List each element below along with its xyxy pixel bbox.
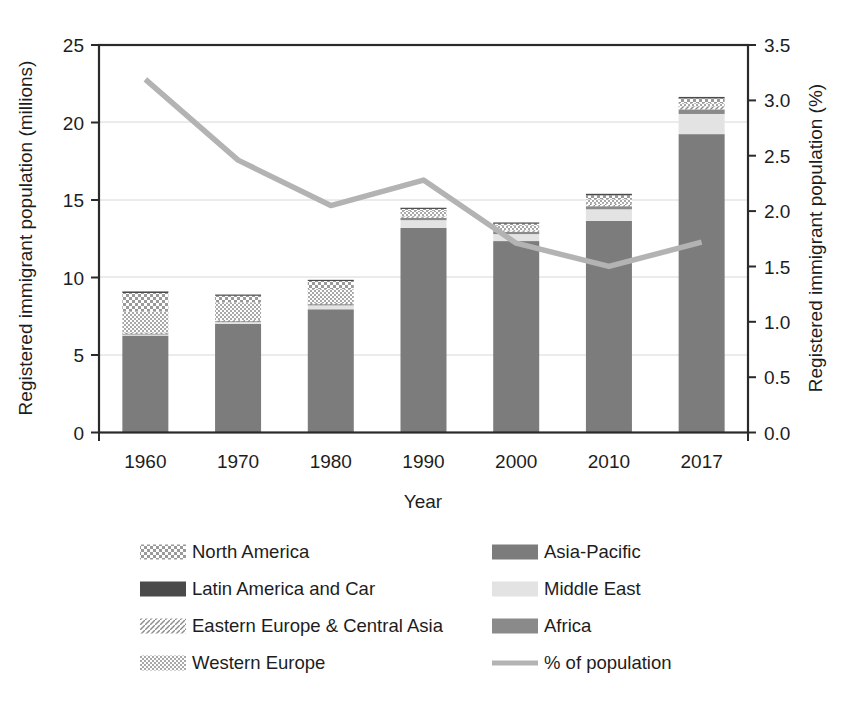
bar-segment-north_america (122, 293, 168, 312)
bar-segment-asia_pacific (308, 309, 354, 432)
bar-segment-western_europe (215, 302, 261, 320)
bar-segment-latin_america (401, 208, 447, 209)
ytick-label: 0 (73, 423, 84, 444)
x-axis-title: Year (404, 491, 443, 512)
bar-segment-eastern_europe (308, 303, 354, 304)
bar-segment-middle_east (308, 305, 354, 309)
x-axis-ticks (99, 433, 748, 442)
legend-swatch-icon (140, 656, 186, 671)
bar-segment-eastern_europe (122, 333, 168, 334)
y2tick-label: 1.0 (764, 312, 790, 333)
bar-segment-asia_pacific (493, 241, 539, 432)
right-axis-tick-labels: 3.5 3.0 2.5 2.0 1.5 1.0 0.5 0.0 (764, 35, 790, 444)
legend-swatch-icon (140, 619, 186, 634)
immigrant-population-chart: 25 20 15 10 5 0 3.5 3.0 2.5 2.0 1.5 1.0 … (0, 0, 852, 704)
bar-2000 (493, 222, 539, 432)
bar-segment-eastern_europe (586, 204, 632, 206)
legend-item[interactable]: Eastern Europe & Central Asia (140, 615, 444, 636)
legend-swatch-icon (140, 582, 186, 597)
legend-label: Asia-Pacific (544, 541, 641, 562)
bar-segment-africa (679, 109, 725, 114)
left-axis-title: Registered immigrant population (million… (15, 61, 36, 416)
bar-segment-eastern_europe (401, 216, 447, 218)
bar-segment-latin_america (679, 97, 725, 99)
y2tick-label: 0.0 (764, 423, 790, 444)
bar-segment-north_america (308, 281, 354, 290)
xtick-label-1960: 1960 (124, 451, 166, 472)
x-axis-tick-labels: 1960197019801990200020102017 (124, 451, 723, 472)
bars-layer (122, 97, 724, 433)
y2tick-label: 3.5 (764, 35, 790, 56)
bar-segment-middle_east (586, 209, 632, 221)
right-axis-title: Registered immigrant population (%) (805, 84, 826, 392)
y2tick-label: 2.5 (764, 146, 790, 167)
ytick-label: 25 (63, 35, 84, 56)
chart-legend: North AmericaLatin America and CarEaster… (140, 541, 672, 673)
legend-swatch-icon (492, 582, 538, 597)
legend-label: Africa (544, 615, 592, 636)
bar-segment-latin_america (493, 222, 539, 223)
bar-1960 (122, 291, 168, 432)
ytick-label: 15 (63, 190, 84, 211)
legend-item[interactable]: Asia-Pacific (492, 541, 641, 562)
bar-segment-africa (401, 218, 447, 220)
legend-item[interactable]: Africa (492, 615, 592, 636)
bar-segment-north_america (586, 195, 632, 199)
chart-figure: 25 20 15 10 5 0 3.5 3.0 2.5 2.0 1.5 1.0 … (0, 0, 852, 704)
bar-segment-western_europe (122, 312, 168, 333)
bar-segment-latin_america (586, 194, 632, 196)
legend-label: % of population (544, 652, 672, 673)
bar-1990 (401, 208, 447, 433)
bar-segment-latin_america (215, 295, 261, 296)
ytick-label: 5 (73, 345, 84, 366)
y2tick-label: 1.5 (764, 257, 790, 278)
bar-segment-latin_america (122, 291, 168, 293)
xtick-label-2000: 2000 (495, 451, 537, 472)
bar-segment-western_europe (679, 103, 725, 106)
y2tick-label: 0.5 (764, 367, 790, 388)
bar-segment-north_america (679, 98, 725, 103)
legend-item[interactable]: North America (140, 541, 310, 562)
legend-item[interactable]: Latin America and Car (140, 578, 375, 599)
left-axis-ticks (91, 45, 99, 433)
legend-item[interactable]: Western Europe (140, 652, 325, 673)
bar-segment-asia_pacific (679, 134, 725, 432)
xtick-label-2010: 2010 (588, 451, 630, 472)
bar-1980 (308, 280, 354, 433)
bar-segment-western_europe (308, 289, 354, 303)
bar-segment-asia_pacific (401, 228, 447, 433)
bar-segment-asia_pacific (586, 221, 632, 433)
legend-swatch-icon (492, 619, 538, 634)
ytick-label: 10 (63, 268, 84, 289)
y2tick-label: 3.0 (764, 90, 790, 111)
xtick-label-2017: 2017 (681, 451, 723, 472)
right-axis-ticks (748, 45, 756, 433)
xtick-label-1980: 1980 (310, 451, 352, 472)
bar-segment-western_europe (401, 211, 447, 216)
bar-segment-middle_east (679, 114, 725, 134)
bar-segment-asia_pacific (122, 336, 168, 433)
bar-segment-africa (586, 206, 632, 209)
xtick-label-1990: 1990 (402, 451, 444, 472)
xtick-label-1970: 1970 (217, 451, 259, 472)
bar-segment-asia_pacific (215, 324, 261, 433)
bar-segment-north_america (215, 295, 261, 302)
legend-label: North America (192, 541, 310, 562)
bar-2010 (586, 194, 632, 433)
bar-segment-latin_america (308, 280, 354, 281)
legend-item[interactable]: Middle East (492, 578, 641, 599)
legend-label: Eastern Europe & Central Asia (192, 615, 444, 636)
bar-segment-western_europe (586, 199, 632, 204)
legend-swatch-icon (492, 545, 538, 560)
ytick-label: 20 (63, 113, 84, 134)
bar-segment-eastern_europe (215, 320, 261, 321)
bar-1970 (215, 295, 261, 433)
legend-item[interactable]: % of population (492, 652, 672, 673)
y2tick-label: 2.0 (764, 201, 790, 222)
legend-label: Western Europe (192, 652, 325, 673)
bar-segment-middle_east (401, 220, 447, 228)
bar-2017 (679, 97, 725, 433)
left-axis-tick-labels: 25 20 15 10 5 0 (63, 35, 84, 444)
legend-label: Latin America and Car (192, 578, 375, 599)
legend-label: Middle East (544, 578, 641, 599)
